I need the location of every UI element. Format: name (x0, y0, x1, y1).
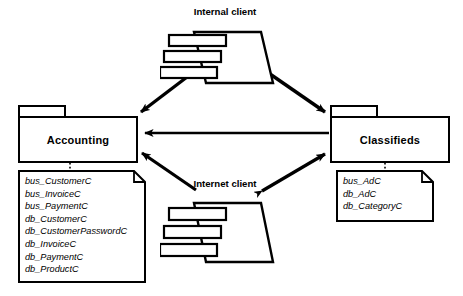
note-accounting-classes[interactable]: bus_CustomerC bus_InvoiceC bus_PaymentC … (18, 170, 146, 283)
note-item: bus_AdC (343, 175, 428, 188)
note-item-list: bus_CustomerC bus_InvoiceC bus_PaymentC … (25, 175, 140, 276)
note-item: bus_PaymentC (25, 200, 140, 213)
note-item: db_AdC (343, 188, 428, 201)
client-node-icon (160, 192, 290, 288)
note-item: db_InvoiceC (25, 238, 140, 251)
node-internal-client[interactable]: Internal client (160, 6, 290, 94)
note-item: db_CustomerC (25, 213, 140, 226)
note-item-list: bus_AdC db_AdC db_CategoryC (343, 175, 428, 213)
package-accounting[interactable]: Accounting (18, 105, 138, 163)
package-label-accounting: Accounting (47, 134, 110, 146)
note-item: db_PaymentC (25, 251, 140, 264)
note-item: db_CategoryC (343, 200, 428, 213)
package-body: Accounting (18, 116, 138, 163)
internet-client-label: Internet client (160, 178, 290, 189)
note-item: bus_InvoiceC (25, 188, 140, 201)
package-label-classifieds: Classifieds (360, 134, 420, 146)
note-item: db_ProductC (25, 263, 140, 276)
note-item: db_CustomerPasswordC (25, 225, 140, 238)
client-node-icon (160, 21, 290, 94)
note-item: bus_CustomerC (25, 175, 140, 188)
note-classifieds-classes[interactable]: bus_AdC db_AdC db_CategoryC (336, 170, 434, 222)
internal-client-label: Internal client (160, 6, 290, 17)
node-internet-client[interactable]: Internet client (160, 178, 290, 288)
package-classifieds[interactable]: Classifieds (330, 105, 450, 163)
package-body: Classifieds (330, 116, 450, 163)
uml-package-diagram: Internal client Internet client Accounti… (0, 0, 463, 296)
